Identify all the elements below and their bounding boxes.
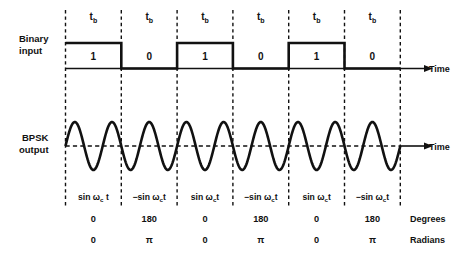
degrees-value-4: 0 <box>314 214 319 224</box>
radians-unit-label: Radians <box>410 235 445 245</box>
bpsk-diagram-canvas: Binary input BPSK output Time Time tbtbt… <box>0 0 464 260</box>
binary-input-label-line2: input <box>19 45 43 56</box>
radians-value-2: 0 <box>202 235 207 245</box>
radians-value-0: 0 <box>91 235 96 245</box>
degrees-value-0: 0 <box>91 214 96 224</box>
degrees-value-1: 180 <box>142 214 157 224</box>
bit-period-label-0: tb <box>90 11 98 24</box>
bit-period-label-5: tb <box>369 11 377 24</box>
degrees-value-group: 018001800180 <box>91 214 380 224</box>
binary-input-label-line1: Binary <box>19 33 49 44</box>
bit-value-2: 1 <box>202 51 208 62</box>
unit-label-group: Degrees Radians <box>410 214 446 245</box>
radians-value-4: 0 <box>314 235 319 245</box>
carrier-phase-label-group: sin ωc t−sin ωctsin ωct−sin ωctsin ωct−s… <box>78 192 389 203</box>
bit-value-5: 0 <box>370 51 376 62</box>
bpsk-diagram: Binary input BPSK output Time Time tbtbt… <box>0 0 464 260</box>
bit-divider-group <box>66 10 401 208</box>
bit-period-label-4: tb <box>313 11 321 24</box>
binary-input-section <box>66 43 434 72</box>
carrier-phase-label-2: sin ωct <box>191 192 220 203</box>
binary-input-waveform <box>66 43 401 69</box>
carrier-phase-label-1: −sin ωct <box>132 192 166 203</box>
carrier-phase-label-4: sin ωct <box>302 192 331 203</box>
carrier-phase-label-3: −sin ωct <box>244 192 278 203</box>
bpsk-output-label-line1: BPSK <box>22 132 49 143</box>
bpsk-time-label: Time <box>429 142 450 152</box>
carrier-phase-label-0: sin ωc t <box>78 192 109 203</box>
degrees-value-5: 180 <box>365 214 380 224</box>
bit-period-label-1: tb <box>145 11 153 24</box>
bit-value-3: 0 <box>258 51 264 62</box>
degrees-unit-label: Degrees <box>410 214 446 224</box>
bit-value-4: 1 <box>314 51 320 62</box>
bit-value-1: 0 <box>146 51 152 62</box>
time-axis-label-group: Time Time <box>429 64 450 152</box>
degrees-value-2: 0 <box>202 214 207 224</box>
radians-value-5: π <box>369 235 376 245</box>
degrees-value-3: 180 <box>253 214 268 224</box>
radians-value-3: π <box>257 235 264 245</box>
side-label-group: Binary input BPSK output <box>19 33 49 155</box>
bit-period-label-3: tb <box>257 11 265 24</box>
radians-value-1: π <box>146 235 153 245</box>
carrier-phase-label-5: −sin ωct <box>356 192 390 203</box>
binary-time-label: Time <box>429 64 450 74</box>
bpsk-output-section <box>66 122 434 170</box>
bpsk-output-label-line2: output <box>19 144 49 155</box>
bit-value-0: 1 <box>91 51 97 62</box>
radians-value-group: 0π0π0π <box>91 235 376 245</box>
bit-period-label-2: tb <box>201 11 209 24</box>
